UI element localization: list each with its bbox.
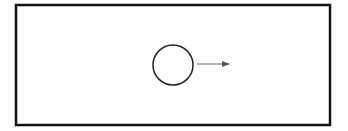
circle-shape <box>153 45 193 85</box>
diagram-frame <box>16 5 330 125</box>
diagram-canvas <box>0 0 348 131</box>
